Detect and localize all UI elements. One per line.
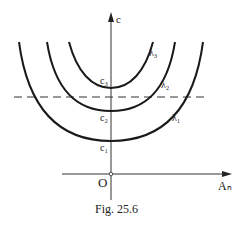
figure: c Aₙ O c₃ c₂ c₁ λ₃ λ₂ λ₁ Fig. 25.6 [0,0,246,229]
c2-label: c₂ [100,113,108,123]
c3-label: c₃ [100,76,108,86]
origin-label: O [98,176,107,189]
origin-dot [109,172,113,176]
c1-label: c₁ [100,143,108,153]
lambda2-label: λ₂ [161,80,169,90]
figure-caption: Fig. 25.6 [95,203,138,215]
lambda1-label: λ₁ [172,113,180,123]
lambda3-label: λ₃ [149,48,157,58]
y-axis-arrow-icon [108,12,114,22]
x-axis-label: Aₙ [218,180,232,192]
y-axis-label: c [116,14,121,25]
diagram-canvas [0,0,246,229]
